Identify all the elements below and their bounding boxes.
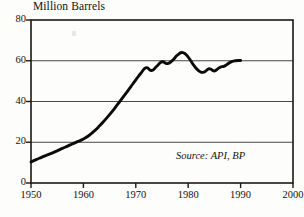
y-tick-label: 20 bbox=[2, 135, 26, 146]
x-tick-label: 1970 bbox=[119, 189, 153, 200]
x-tick-label: 1960 bbox=[66, 189, 100, 200]
y-tick-label: 0 bbox=[2, 176, 26, 187]
y-tick-label: 80 bbox=[2, 13, 26, 24]
chart-plot-area bbox=[0, 0, 304, 217]
x-tick-label: 1950 bbox=[14, 189, 48, 200]
x-tick-label: 1990 bbox=[224, 189, 258, 200]
axis-ticks bbox=[26, 20, 293, 188]
x-tick-label: 1980 bbox=[171, 189, 205, 200]
y-tick-label: 40 bbox=[2, 95, 26, 106]
x-tick-label: 2000 bbox=[276, 189, 304, 200]
source-annotation: Source: API, BP bbox=[176, 150, 245, 161]
y-tick-label: 60 bbox=[2, 54, 26, 65]
gridlines bbox=[31, 61, 293, 143]
chart-figure: Million Barrels 020406080 19501960197019… bbox=[0, 0, 304, 217]
data-series-line bbox=[31, 52, 241, 162]
